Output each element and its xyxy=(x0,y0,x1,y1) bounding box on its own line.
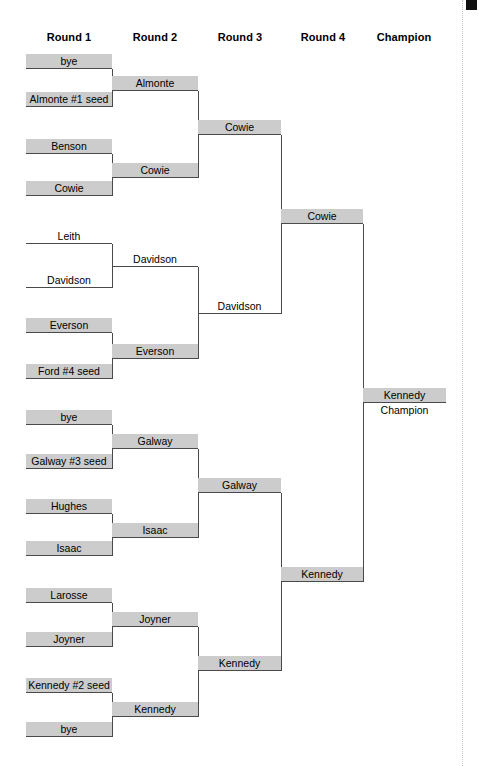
bracket-slot-round2-4[interactable]: Everson xyxy=(112,344,198,359)
bracket-slot-round1-10[interactable]: Galway #3 seed xyxy=(26,454,112,469)
bracket-slot-round2-3[interactable]: Davidson xyxy=(112,252,198,267)
bracket-slot-round3-1[interactable]: Cowie xyxy=(198,120,281,135)
bracket-slot-round1-1[interactable]: bye xyxy=(26,54,112,69)
page-corner-mark xyxy=(466,0,477,10)
bracket-slot-round1-2[interactable]: Almonte #1 seed xyxy=(26,92,112,107)
bracket-slot-round1-4[interactable]: Cowie xyxy=(26,181,112,196)
bracket-slot-round1-11[interactable]: Hughes xyxy=(26,499,112,514)
bracket-connector xyxy=(198,449,199,538)
bracket-slot-round1-15[interactable]: Kennedy #2 seed xyxy=(26,678,112,693)
bracket-slot-round2-8[interactable]: Kennedy xyxy=(112,702,198,717)
bracket-slot-round1-16[interactable]: bye xyxy=(26,722,112,737)
bracket-connector xyxy=(281,493,282,671)
bracket-slot-round1-6[interactable]: Davidson xyxy=(26,273,112,288)
round-header-5: Champion xyxy=(344,31,464,43)
bracket-slot-round1-14[interactable]: Joyner xyxy=(26,632,112,647)
bracket-slot-round1-13[interactable]: Larosse xyxy=(26,588,112,603)
bracket-slot-champion-1[interactable]: Kennedy xyxy=(363,388,446,403)
bracket-slot-round2-2[interactable]: Cowie xyxy=(112,163,198,178)
bracket-slot-round2-1[interactable]: Almonte xyxy=(112,76,198,91)
bracket-slot-round4-1[interactable]: Cowie xyxy=(281,209,363,224)
tournament-bracket-page: Round 1Round 2Round 3Round 4ChampionbyeA… xyxy=(0,0,479,766)
page-edge-rule xyxy=(462,0,463,766)
bracket-slot-round1-7[interactable]: Everson xyxy=(26,318,112,333)
bracket-slot-round1-5[interactable]: Leith xyxy=(26,229,112,244)
bracket-slot-round3-3[interactable]: Galway xyxy=(198,478,281,493)
bracket-slot-round1-9[interactable]: bye xyxy=(26,410,112,425)
bracket-slot-round2-5[interactable]: Galway xyxy=(112,434,198,449)
bracket-slot-round2-6[interactable]: Isaac xyxy=(112,523,198,538)
bracket-slot-round3-4[interactable]: Kennedy xyxy=(198,656,281,671)
bracket-connector xyxy=(363,224,364,582)
bracket-connector xyxy=(281,135,282,314)
bracket-slot-round3-2[interactable]: Davidson xyxy=(198,299,281,314)
champion-caption: Champion xyxy=(363,404,446,416)
bracket-slot-round1-8[interactable]: Ford #4 seed xyxy=(26,364,112,379)
bracket-slot-round1-3[interactable]: Benson xyxy=(26,139,112,154)
bracket-slot-round4-2[interactable]: Kennedy xyxy=(281,567,363,582)
bracket-connector xyxy=(198,627,199,717)
bracket-slot-round2-7[interactable]: Joyner xyxy=(112,612,198,627)
bracket-slot-round1-12[interactable]: Isaac xyxy=(26,541,112,556)
